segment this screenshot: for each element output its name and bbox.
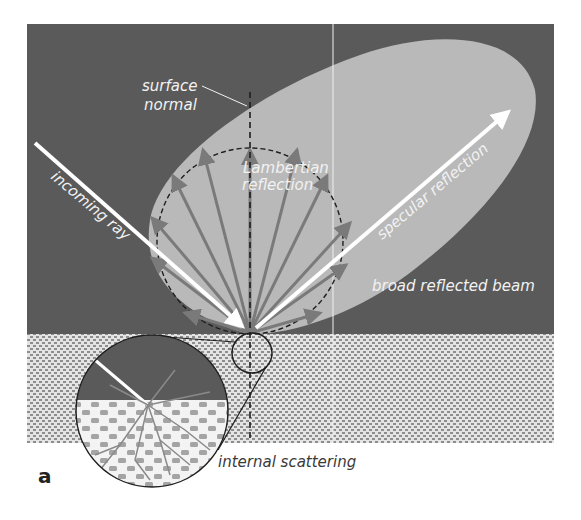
panel-label: a — [38, 464, 52, 488]
surface-normal-label-1: surface — [142, 77, 197, 95]
reflection-diagram: surface normal Lambertian reflection inc… — [0, 0, 581, 520]
lambertian-label-1: Lambertian — [243, 159, 329, 177]
broad-reflected-beam-label: broad reflected beam — [372, 277, 535, 295]
internal-scattering-label: internal scattering — [218, 453, 356, 471]
surface-normal-label-2: normal — [144, 96, 198, 114]
lambertian-label-2: reflection — [242, 176, 313, 194]
